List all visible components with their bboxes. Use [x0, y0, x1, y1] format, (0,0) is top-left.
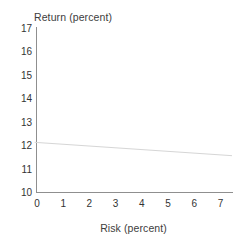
x-tick-label: 4 — [133, 198, 151, 209]
x-tick-label: 5 — [159, 198, 177, 209]
x-tick-label: 6 — [185, 198, 203, 209]
x-tick-label: 2 — [80, 198, 98, 209]
x-axis-tick-labels: 0 1 2 3 4 5 6 7 — [0, 0, 243, 244]
x-tick-label: 0 — [28, 198, 46, 209]
risk-return-chart: Return (percent) 17 16 15 14 13 12 11 10… — [0, 0, 243, 244]
x-axis-title: Risk (percent) — [0, 222, 243, 234]
x-tick-label: 1 — [54, 198, 72, 209]
x-tick-label: 3 — [107, 198, 125, 209]
x-tick-label: 7 — [212, 198, 230, 209]
